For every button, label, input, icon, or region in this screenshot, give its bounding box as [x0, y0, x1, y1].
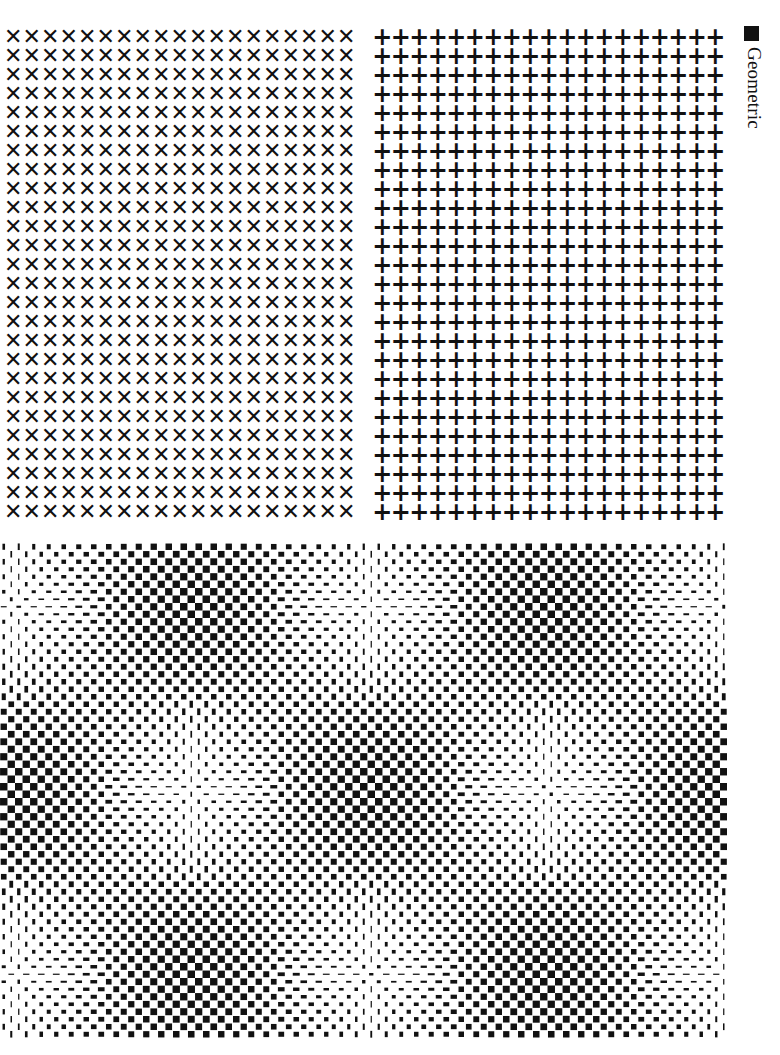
plus-mark-icon: +	[503, 502, 522, 521]
x-mark-icon: ✕	[115, 502, 134, 521]
plus-mark-icon: +	[688, 502, 707, 521]
plus-mark-icon: +	[373, 502, 392, 521]
x-mark-icon: ✕	[171, 502, 190, 521]
x-mark-icon: ✕	[226, 502, 245, 521]
x-mark-icon: ✕	[245, 502, 264, 521]
plus-mark-icon: +	[466, 502, 485, 521]
x-mark-pattern: ✕✕✕✕✕✕✕✕✕✕✕✕✕✕✕✕✕✕✕✕✕✕✕✕✕✕✕✕✕✕✕✕✕✕✕✕✕✕✕✕…	[4, 27, 356, 521]
x-mark-icon: ✕	[300, 502, 319, 521]
plus-mark-icon: +	[632, 502, 651, 521]
x-mark-icon: ✕	[4, 502, 23, 521]
x-mark-icon: ✕	[60, 502, 79, 521]
x-mark-icon: ✕	[41, 502, 60, 521]
x-mark-icon: ✕	[97, 502, 116, 521]
plus-mark-icon: +	[614, 502, 633, 521]
plus-mark-icon: +	[392, 502, 411, 521]
plus-mark-icon: +	[410, 502, 429, 521]
plus-mark-icon: +	[484, 502, 503, 521]
plus-mark-icon: +	[706, 502, 725, 521]
x-mark-icon: ✕	[263, 502, 282, 521]
square-bullet-icon	[744, 26, 759, 41]
x-mark-icon: ✕	[189, 502, 208, 521]
x-mark-icon: ✕	[23, 502, 42, 521]
plus-mark-pattern: ++++++++++++++++++++++++++++++++++++++++…	[373, 27, 725, 521]
plus-mark-icon: +	[577, 502, 596, 521]
x-mark-icon: ✕	[337, 502, 356, 521]
x-mark-icon: ✕	[319, 502, 338, 521]
plus-mark-icon: +	[669, 502, 688, 521]
section-label-text: Geometric	[743, 47, 765, 129]
plus-mark-icon: +	[558, 502, 577, 521]
op-art-checker-pattern	[0, 543, 727, 1038]
x-mark-icon: ✕	[134, 502, 153, 521]
x-mark-icon: ✕	[78, 502, 97, 521]
plus-mark-icon: +	[521, 502, 540, 521]
x-mark-icon: ✕	[282, 502, 301, 521]
plus-mark-icon: +	[651, 502, 670, 521]
plus-mark-icon: +	[540, 502, 559, 521]
plus-mark-icon: +	[595, 502, 614, 521]
plus-mark-icon: +	[429, 502, 448, 521]
x-mark-icon: ✕	[152, 502, 171, 521]
x-mark-icon: ✕	[208, 502, 227, 521]
section-label: Geometric	[740, 26, 764, 129]
plus-mark-icon: +	[447, 502, 466, 521]
